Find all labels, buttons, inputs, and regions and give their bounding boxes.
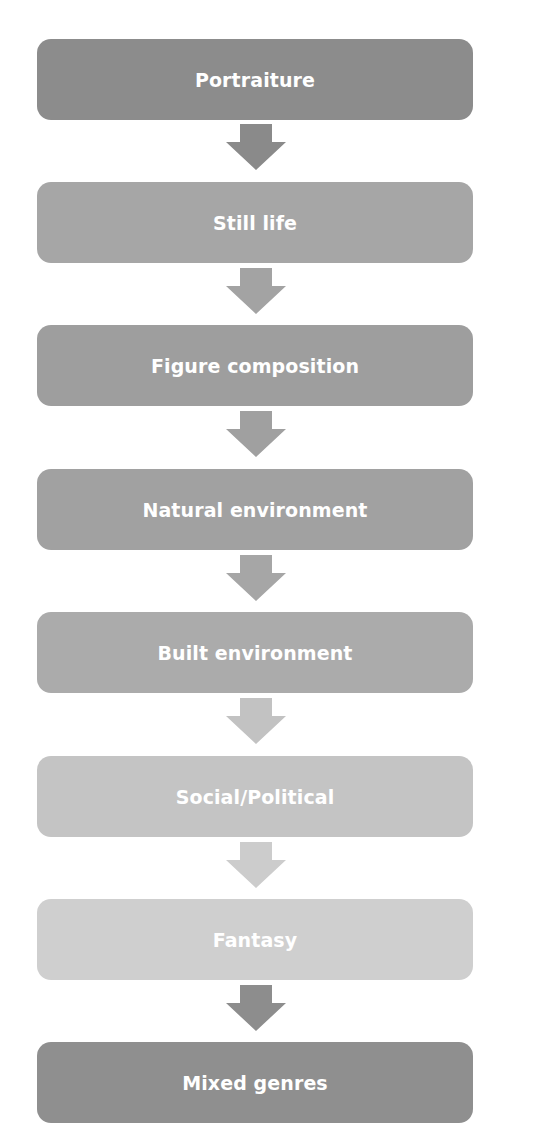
step-box-still-life: Still life: [37, 182, 473, 263]
step-box-figure-composition: Figure composition: [37, 325, 473, 406]
step-label: Mixed genres: [182, 1072, 328, 1094]
step-label: Portraiture: [195, 69, 315, 91]
down-arrow-icon: [226, 698, 286, 744]
step-label: Built environment: [158, 642, 353, 664]
down-arrow-icon: [226, 411, 286, 457]
down-arrow-icon: [226, 555, 286, 601]
step-box-fantasy: Fantasy: [37, 899, 473, 980]
step-box-social-political: Social/Political: [37, 756, 473, 837]
down-arrow-icon: [226, 124, 286, 170]
step-label: Still life: [213, 212, 297, 234]
step-label: Figure composition: [151, 355, 359, 377]
step-box-natural-environment: Natural environment: [37, 469, 473, 550]
step-box-portraiture: Portraiture: [37, 39, 473, 120]
step-box-built-environment: Built environment: [37, 612, 473, 693]
down-arrow-icon: [226, 985, 286, 1031]
down-arrow-icon: [226, 842, 286, 888]
step-label: Natural environment: [142, 499, 367, 521]
step-label: Fantasy: [213, 929, 298, 951]
genre-flowchart: Portraiture Still life Figure compositio…: [0, 0, 546, 1148]
step-label: Social/Political: [176, 786, 335, 808]
down-arrow-icon: [226, 268, 286, 314]
step-box-mixed-genres: Mixed genres: [37, 1042, 473, 1123]
